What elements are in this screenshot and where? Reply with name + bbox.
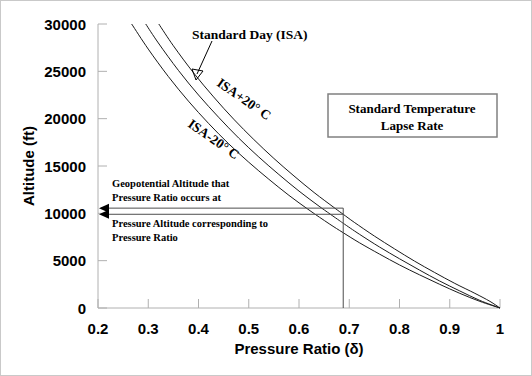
y-tick-label: 30000 <box>44 16 86 33</box>
x-axis-tick-labels: 0.20.30.40.50.60.70.80.91 <box>88 320 505 337</box>
x-tick-label: 0.4 <box>188 320 210 337</box>
geopotential-line-1: Geopotential Altitude that <box>112 178 230 189</box>
data-curve <box>132 24 500 308</box>
y-tick-label: 10000 <box>44 205 86 222</box>
isa-plus-20-label: ISA+20° C <box>214 75 274 123</box>
y-tick-label: 5000 <box>53 252 86 269</box>
geopotential-line-2: Pressure Ratio occurs at <box>112 192 221 203</box>
x-tick-label: 0.9 <box>439 320 460 337</box>
chart-canvas: 050001000015000200002500030000 0.20.30.4… <box>1 1 532 376</box>
y-tick-label: 25000 <box>44 63 86 80</box>
legend-line-2: Lapse Rate <box>381 118 444 133</box>
pressure-altitude-annotation: Pressure Altitude corresponding to Press… <box>112 218 268 243</box>
pressure-altitude-line-2: Pressure Ratio <box>112 232 178 243</box>
y-axis-title: Altitude (ft) <box>20 126 37 206</box>
standard-day-arrowhead <box>192 69 203 80</box>
x-tick-label: 0.3 <box>138 320 159 337</box>
data-curve <box>159 24 500 308</box>
x-axis-ticks <box>98 299 500 308</box>
x-tick-label: 0.2 <box>88 320 109 337</box>
x-axis-title: Pressure Ratio (δ) <box>234 340 363 357</box>
y-axis-tick-labels: 050001000015000200002500030000 <box>44 16 86 317</box>
isa-minus-20-label: ISA-20° C <box>185 116 242 162</box>
y-tick-label: 15000 <box>44 158 86 175</box>
chart-figure: 050001000015000200002500030000 0.20.30.4… <box>0 0 532 376</box>
legend-box: Standard Temperature Lapse Rate <box>328 94 497 137</box>
y-axis-ticks <box>98 24 107 308</box>
pressure-altitude-line-1: Pressure Altitude corresponding to <box>112 218 268 229</box>
y-tick-label: 0 <box>78 300 86 317</box>
x-tick-label: 0.7 <box>339 320 360 337</box>
legend-line-1: Standard Temperature <box>348 101 475 116</box>
annotation-arrowhead <box>99 210 109 219</box>
standard-day-arrow-line <box>197 41 212 74</box>
standard-day-label: Standard Day (ISA) <box>192 27 308 42</box>
data-curve <box>146 24 500 308</box>
data-curves <box>132 24 500 308</box>
y-tick-label: 20000 <box>44 110 86 127</box>
x-tick-label: 1 <box>496 320 504 337</box>
x-tick-label: 0.8 <box>389 320 410 337</box>
x-tick-label: 0.5 <box>238 320 259 337</box>
geopotential-annotation: Geopotential Altitude that Pressure Rati… <box>112 178 230 203</box>
axes <box>98 24 500 308</box>
x-tick-label: 0.6 <box>289 320 310 337</box>
